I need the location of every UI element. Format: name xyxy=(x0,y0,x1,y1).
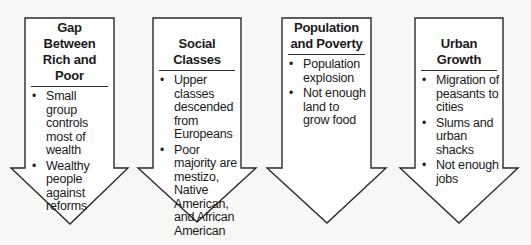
bullet-item: Upper classes descended from Europeans xyxy=(157,74,237,142)
bullet-list: Population explosion Not enough land to … xyxy=(286,58,367,128)
bullet-item: Not enough land to grow food xyxy=(286,87,367,128)
column-heading: Social Classes xyxy=(159,36,235,71)
bullet-list: Upper classes descended from Europeans P… xyxy=(157,74,237,238)
bullet-item: Small group controls most of wealth xyxy=(29,90,110,158)
bullet-item: Wealthy people against reforms xyxy=(29,160,110,214)
heading-line: Social Classes xyxy=(159,36,235,68)
column-social-classes: Social Classes Upper classes descended f… xyxy=(153,20,241,240)
bullet-item: Migration of peasants to cities xyxy=(419,74,499,115)
bullet-list: Small group controls most of wealth Weal… xyxy=(29,90,110,214)
heading-line: Gap Between xyxy=(31,20,108,52)
bullet-item: Population explosion xyxy=(286,58,367,85)
column-heading: Gap Between Rich and Poor xyxy=(31,20,108,87)
heading-line: Rich and Poor xyxy=(31,52,108,84)
bullet-item: Not enough jobs xyxy=(419,159,499,186)
column-population-and-poverty: Population and Poverty Population explos… xyxy=(282,20,371,130)
heading-line: Population xyxy=(288,20,365,36)
column-urban-growth: Urban Growth Migration of peasants to ci… xyxy=(415,20,503,188)
column-gap-between-rich-and-poor: Gap Between Rich and Poor Small group co… xyxy=(25,20,114,216)
bullet-item: Slums and urban shacks xyxy=(419,117,499,158)
heading-line: Urban Growth xyxy=(421,36,497,68)
heading-line: and Poverty xyxy=(288,36,365,52)
bullet-list: Migration of peasants to cities Slums an… xyxy=(419,74,499,186)
bullet-item: Poor majority are mestizo, Native Americ… xyxy=(157,144,237,239)
column-heading: Population and Poverty xyxy=(288,20,365,55)
column-heading: Urban Growth xyxy=(421,36,497,71)
